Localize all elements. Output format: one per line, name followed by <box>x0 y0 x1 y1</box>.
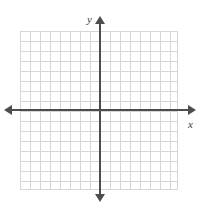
x-axis-right-arrow-icon <box>188 105 196 115</box>
x-axis-left-arrow-icon <box>4 105 12 115</box>
y-axis-up-arrow-icon <box>95 16 105 24</box>
coordinate-plane-graph: y x <box>0 0 202 208</box>
y-axis-line <box>99 21 101 198</box>
y-axis-label: y <box>87 14 92 25</box>
x-axis-label: x <box>188 119 193 130</box>
y-axis-down-arrow-icon <box>95 194 105 202</box>
